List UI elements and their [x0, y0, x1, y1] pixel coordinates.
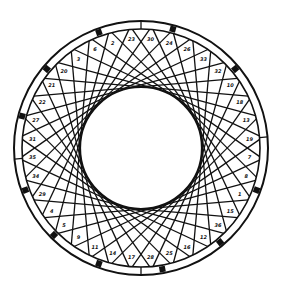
cell-label: 11	[91, 244, 98, 250]
cell-label: 34	[32, 173, 39, 179]
cell-label: 26	[184, 46, 191, 52]
cell-label: 29	[39, 191, 46, 197]
cell-label: 14	[109, 250, 116, 256]
cell-label: 35	[29, 154, 36, 160]
cell-label: 23	[128, 36, 135, 42]
cell-label: 33	[200, 56, 207, 62]
cell-label: 12	[200, 234, 207, 240]
string-art-diagram: 3024263332101813197811536121625281714119…	[0, 0, 285, 294]
ring-marker	[159, 266, 166, 273]
center-hole	[80, 87, 202, 209]
cell-label: 27	[32, 117, 39, 123]
cell-label: 8	[245, 173, 249, 179]
cell-label: 18	[236, 99, 243, 105]
cell-label: 9	[77, 234, 81, 240]
cell-label: 7	[248, 154, 252, 160]
cell-label: 30	[147, 36, 154, 42]
cell-label: 13	[243, 117, 250, 123]
cell-label: 22	[39, 99, 46, 105]
cell-label: 36	[215, 222, 222, 228]
cell-label: 31	[29, 136, 36, 142]
cell-label: 20	[60, 68, 67, 74]
cell-label: 17	[128, 254, 135, 260]
cell-label: 32	[215, 68, 222, 74]
ring-diagram-svg: 3024263332101813197811536121625281714119…	[0, 0, 285, 294]
cell-label: 24	[166, 40, 173, 46]
ring-tick	[260, 137, 268, 138]
cell-label: 3	[77, 56, 81, 62]
cell-label: 16	[184, 244, 191, 250]
ring-tick	[14, 158, 22, 159]
cell-label: 10	[227, 82, 234, 88]
cell-label: 25	[166, 250, 173, 256]
cell-label: 6	[93, 46, 97, 52]
cell-label: 19	[246, 136, 253, 142]
cell-label: 28	[147, 254, 154, 260]
cell-label: 2	[111, 40, 115, 46]
cell-label: 1	[238, 191, 241, 197]
cell-label: 5	[62, 222, 66, 228]
cell-label: 15	[227, 208, 234, 214]
cell-label: 21	[48, 82, 55, 88]
cell-label: 4	[50, 208, 54, 214]
